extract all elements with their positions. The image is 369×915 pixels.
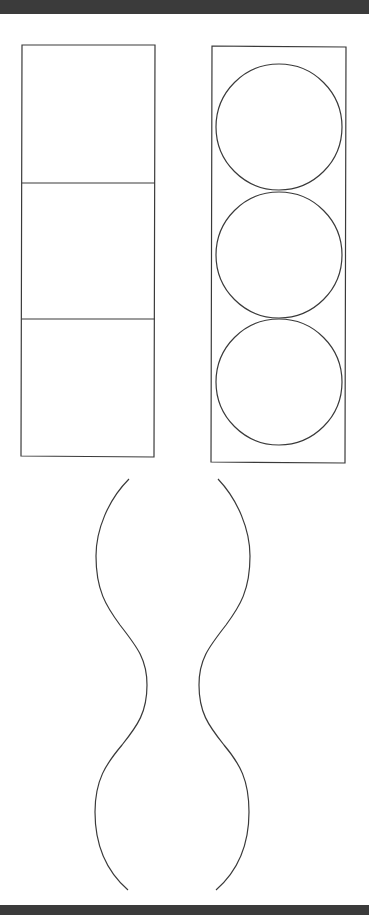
- stacked-squares-figure: [21, 45, 155, 457]
- bottom-bar: [0, 905, 369, 915]
- stacked-circles-figure: [211, 46, 346, 463]
- circle-top: [216, 64, 342, 190]
- circle-middle: [216, 192, 342, 318]
- right-wavy-curve: [199, 479, 250, 890]
- circles-outer-rect: [211, 46, 346, 463]
- squares-outer-rect: [21, 45, 155, 457]
- circle-bottom: [216, 319, 342, 445]
- wavy-outline-figure: [95, 479, 250, 890]
- diagram-canvas: [0, 0, 369, 915]
- left-wavy-curve: [95, 479, 147, 890]
